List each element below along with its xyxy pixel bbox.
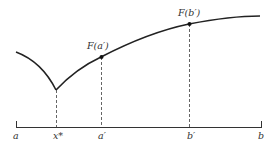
label-f-aprime: F(a′) — [86, 40, 109, 51]
axis-label-bprime: b′ — [187, 130, 196, 141]
x-axis — [17, 121, 262, 128]
point-f-aprime — [100, 55, 104, 59]
curve-left-branch — [16, 52, 56, 90]
dashed-guides — [57, 24, 190, 127]
point-f-bprime — [188, 22, 192, 26]
axis-label-b: b — [258, 130, 264, 141]
axis-label-a: a — [13, 130, 19, 141]
label-f-bprime: F(b′) — [177, 7, 201, 18]
curve-right-branch — [56, 16, 260, 90]
diagram-canvas: F(a′) F(b′) a x* a′ b′ b — [0, 0, 280, 143]
axis-label-aprime: a′ — [98, 130, 107, 141]
axis-label-xstar: x* — [53, 130, 63, 141]
